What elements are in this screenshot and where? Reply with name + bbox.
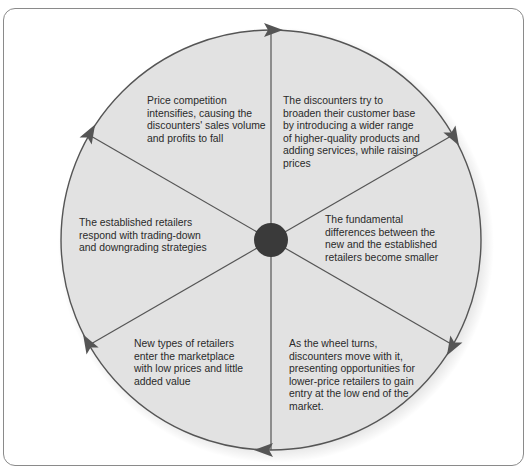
- segment-wheel-turns: As the wheel turns, discounters move wit…: [289, 338, 417, 414]
- segment-new-retailers: New types of retailers enter the marketp…: [134, 338, 254, 388]
- segment-discounters-broaden: The discounters try to broaden their cus…: [283, 95, 423, 171]
- segment-price-competition: Price competition intensifies, causing t…: [147, 95, 277, 145]
- segment-established-respond: The established retailers respond with t…: [79, 217, 209, 255]
- wheel-hub: [254, 223, 288, 257]
- segment-differences-smaller: The fundamental differences between the …: [325, 214, 455, 264]
